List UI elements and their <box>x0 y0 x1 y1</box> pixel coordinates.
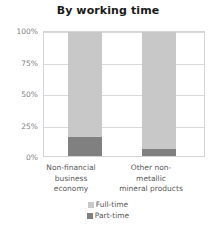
bar-segment-full-time[interactable] <box>68 32 102 137</box>
x-axis-label-1: Other non-metallic mineral products <box>117 163 185 195</box>
y-axis-tick-3: 75% <box>4 58 38 67</box>
bar-segment-full-time[interactable] <box>142 32 176 149</box>
legend-label-part-time: Part-time <box>95 211 129 220</box>
legend-label-full-time: Full-time <box>96 200 128 209</box>
chart-title: By working time <box>0 4 216 17</box>
bar-other-non-metallic-mineral-products[interactable] <box>142 32 176 156</box>
chart-container: By working time 0% 25% 50% 75% 100% Non-… <box>0 0 216 235</box>
plot-area <box>43 31 205 157</box>
y-axis-tick-0: 0% <box>4 153 38 162</box>
bar-non-financial-business-economy[interactable] <box>68 32 102 156</box>
y-axis-tick-4: 100% <box>4 27 38 36</box>
x-axis-label-0: Non-financial business economy <box>40 163 102 195</box>
bar-segment-part-time[interactable] <box>68 137 102 156</box>
legend-item-full-time[interactable]: Full-time <box>88 199 128 210</box>
y-axis-tick-2: 50% <box>4 90 38 99</box>
legend-swatch-icon <box>88 202 94 208</box>
chart-legend: Full-time Part-time <box>0 199 216 221</box>
legend-swatch-icon <box>87 213 93 219</box>
bar-segment-part-time[interactable] <box>142 149 176 156</box>
legend-item-part-time[interactable]: Part-time <box>87 210 129 221</box>
y-axis-tick-1: 25% <box>4 121 38 130</box>
